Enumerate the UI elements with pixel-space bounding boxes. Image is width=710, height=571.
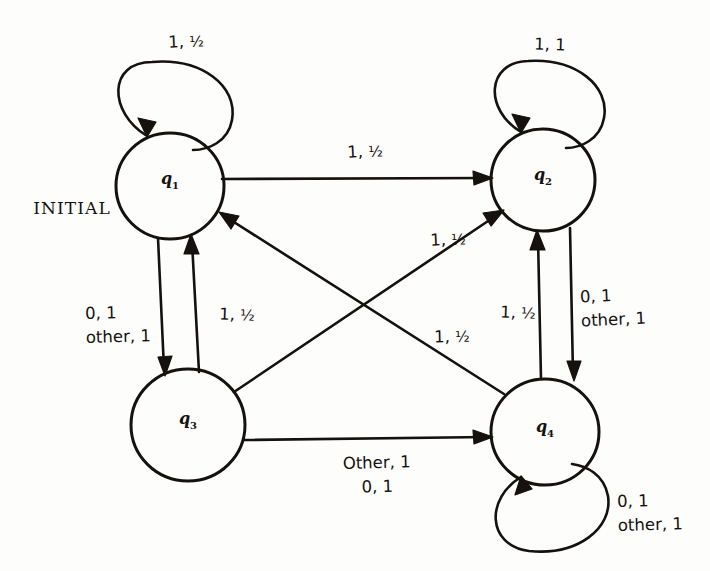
edge-q3-q1 xyxy=(184,234,199,372)
edge-label-q3-q4: Other, 1 0, 1 xyxy=(342,450,411,500)
edge-q4-q2-arrowhead xyxy=(530,230,545,250)
edge-label-q2-self-text: 1, 1 xyxy=(534,34,566,54)
state-label-q2-index: 2 xyxy=(545,176,552,187)
state-label-q3-index: 3 xyxy=(190,420,197,431)
edge-label-q4-q1-text: 1, xyxy=(434,327,455,347)
edge-q1-q2-path xyxy=(222,178,487,179)
edge-q4-q2-path xyxy=(538,238,541,379)
edge-label-q2-self: 1, 1 xyxy=(534,32,566,57)
edge-label-q4-q2-text: 1, xyxy=(500,302,522,322)
state-label-q1: q1 xyxy=(161,169,179,190)
edge-label-q1-self: 1, ½ xyxy=(168,29,205,54)
edge-label-q4-self-line1: 0, 1 xyxy=(617,491,649,511)
edge-label-q4-q1: 1, ½ xyxy=(434,325,470,350)
edge-label-q4-q2: 1, ½ xyxy=(500,300,536,325)
edge-q1-q3-path xyxy=(158,238,164,369)
edge-label-q3-q4-line1: Other, 1 xyxy=(343,452,411,473)
edge-label-q3-q2-text: 1, xyxy=(430,230,452,250)
edge-label-q3-q1-text: 1, xyxy=(219,304,241,324)
state-label-q2-letter: q xyxy=(534,165,545,184)
edge-q2-q4 xyxy=(567,228,581,381)
edge-label-q2-q4-line1: 0, 1 xyxy=(580,286,612,306)
edge-label-q4-q2-frac: ½ xyxy=(521,304,536,322)
edge-label-q3-q1-frac: ½ xyxy=(240,306,255,324)
state-label-q4-index: 4 xyxy=(547,428,554,439)
edge-label-q3-q2: 1, ½ xyxy=(430,227,467,252)
state-label-q1-index: 1 xyxy=(172,180,179,191)
edge-q1-q3 xyxy=(158,238,172,376)
self-loop-q2-path xyxy=(495,61,605,148)
initial-state-marker: INITIAL xyxy=(33,198,111,218)
edge-q2-q4-path xyxy=(570,228,573,373)
self-loop-q1 xyxy=(118,62,232,150)
edge-label-q4-q1-frac: ½ xyxy=(455,328,470,346)
edge-label-q1-q3: 0, 1 other, 1 xyxy=(85,300,151,350)
edge-q3-q4 xyxy=(244,430,493,444)
edge-label-q4-self-line2: other, 1 xyxy=(618,512,684,538)
edge-q3-q4-path xyxy=(244,437,487,440)
state-label-q3: q3 xyxy=(179,409,197,430)
edge-q3-q1-path xyxy=(192,242,199,372)
edge-label-q1-self-frac: ½ xyxy=(189,32,204,51)
edge-label-q3-q2-frac: ½ xyxy=(451,230,466,249)
edge-label-q4-self: 0, 1 other, 1 xyxy=(617,488,683,538)
edge-q1-q2 xyxy=(222,171,493,185)
edge-label-q1-q3-line2: other, 1 xyxy=(86,324,152,350)
edge-label-q3-q1: 1, ½ xyxy=(219,302,255,327)
self-loop-q4 xyxy=(496,464,609,552)
state-label-q3-letter: q xyxy=(179,409,190,428)
state-label-q1-letter: q xyxy=(161,169,172,188)
edge-label-q1-q2: 1, ½ xyxy=(347,139,384,164)
edge-label-q3-q4-line2: 0, 1 xyxy=(343,474,411,500)
state-label-q4-letter: q xyxy=(536,417,547,436)
edge-label-q1-q2-text: 1, xyxy=(347,142,369,162)
edge-label-q1-q2-frac: ½ xyxy=(368,142,383,161)
state-diagram-canvas: q1 q2 q3 q4 INITIAL 1, ½ 1, 1 0, 1 other… xyxy=(0,0,710,571)
edge-label-q2-q4: 0, 1 other, 1 xyxy=(580,283,647,334)
edge-q2-q4-arrowhead xyxy=(567,361,581,381)
self-loop-q1-path xyxy=(118,62,232,150)
self-loop-q2 xyxy=(495,61,605,148)
edge-label-q1-self-text: 1, xyxy=(168,32,190,52)
edge-label-q1-q3-line1: 0, 1 xyxy=(85,303,117,323)
self-loop-q4-path xyxy=(496,464,609,552)
state-label-q4: q4 xyxy=(536,417,554,438)
edge-label-q2-q4-line2: other, 1 xyxy=(581,307,647,334)
edge-q4-q1-arrowhead xyxy=(219,212,239,229)
state-label-q2: q2 xyxy=(534,165,552,186)
